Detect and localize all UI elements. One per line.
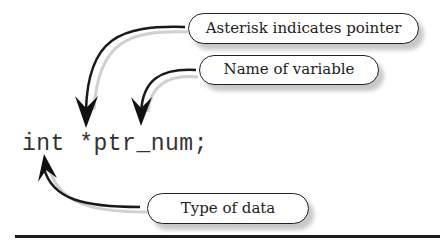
horizontal-rule <box>15 235 440 238</box>
callout-data-type: Type of data <box>147 193 309 224</box>
callout-variable-name: Name of variable <box>199 55 379 85</box>
callout-data-type-label: Type of data <box>181 199 276 217</box>
callout-asterisk: Asterisk indicates pointer <box>188 13 419 44</box>
arrow-to-variable-icon <box>131 70 196 126</box>
arrow-to-asterisk-icon <box>75 27 185 128</box>
code-declaration: int *ptr_num; <box>22 131 208 157</box>
callout-variable-name-label: Name of variable <box>224 60 355 78</box>
callout-asterisk-label: Asterisk indicates pointer <box>206 19 402 37</box>
